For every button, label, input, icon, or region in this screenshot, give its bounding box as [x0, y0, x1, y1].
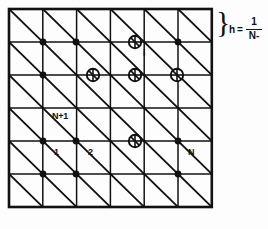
filled-node: [40, 72, 47, 79]
filled-node: [175, 138, 182, 145]
filled-node: [73, 138, 80, 145]
filled-node: [40, 138, 47, 145]
spacing-annotation: } h = 1 N-: [216, 8, 268, 54]
node-label-two: 2: [88, 147, 93, 157]
filled-node: [40, 39, 47, 46]
filled-node: [73, 39, 80, 46]
formula-fraction: 1 N-: [246, 17, 262, 42]
mesh-figure: i N+1 1 2 N } h = 1 N-: [0, 0, 268, 229]
filled-node: [175, 171, 182, 178]
formula-numerator: 1: [249, 17, 259, 28]
node-label-n-plus-one: N+1: [52, 111, 68, 121]
formula-variable-h: h: [229, 24, 235, 35]
formula-equals-sign: =: [237, 24, 243, 35]
node-label-i: i: [143, 48, 145, 58]
node-label-one: 1: [54, 147, 59, 157]
filled-node: [175, 39, 182, 46]
formula-denominator: N-: [247, 31, 262, 42]
spacing-formula: h = 1 N-: [229, 17, 262, 42]
filled-node: [73, 171, 80, 178]
node-label-capital-n: N: [188, 147, 194, 157]
filled-node: [40, 171, 47, 178]
